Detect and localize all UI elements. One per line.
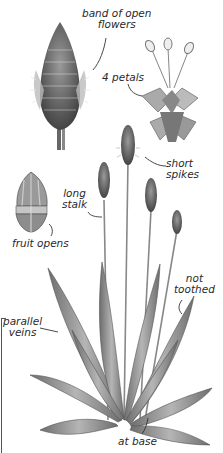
label-toothed-line2: toothed — [174, 284, 215, 295]
petals-leader-line — [128, 84, 142, 96]
spikes-leader-line — [145, 157, 166, 166]
fruit-leader-line — [49, 224, 52, 236]
single-flower-closeup — [142, 38, 198, 142]
label-band-of-open-flowers: band of open flowers — [82, 8, 151, 30]
label-band-line2: flowers — [82, 19, 151, 30]
label-fruit-opens: fruit opens — [12, 238, 69, 249]
veins-leader-line — [40, 328, 58, 332]
plantain-illustration: band of open flowers 4 petals short spik… — [0, 0, 223, 453]
flower-head-closeup — [30, 22, 90, 150]
label-long-stalk: long stalk — [62, 188, 87, 210]
left-border-rule — [1, 318, 2, 453]
label-parallel-veins: parallel veins — [3, 316, 42, 338]
label-veins-line2: veins — [3, 327, 42, 338]
label-short-spikes: short spikes — [166, 158, 199, 180]
label-four-petals: 4 petals — [102, 72, 144, 83]
stalk-leader-line — [88, 212, 102, 217]
label-spikes-line2: spikes — [166, 169, 199, 180]
fruit-capsule — [16, 172, 47, 232]
plant-drawing — [0, 0, 223, 453]
label-not-toothed: not toothed — [174, 273, 215, 295]
label-at-base: at base — [118, 436, 157, 447]
label-stalk-line2: stalk — [62, 199, 87, 210]
band-leader-line — [93, 38, 106, 70]
toothed-leader-line — [179, 300, 182, 314]
